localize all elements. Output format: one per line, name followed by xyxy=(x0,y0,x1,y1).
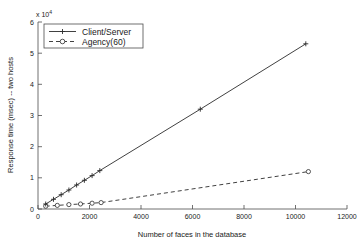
legend-label-client-server: Client/Server xyxy=(82,27,131,37)
x-tick-label: 6000 xyxy=(185,213,201,220)
x-tick-label: 8000 xyxy=(236,213,252,220)
data-point xyxy=(90,201,94,205)
legend-marker-circle-icon xyxy=(60,39,65,44)
y-tick-label: 6 xyxy=(30,19,34,26)
legend-label-agency60: Agency(60) xyxy=(82,37,126,47)
x-tick-label: 12000 xyxy=(337,213,357,220)
data-point xyxy=(306,170,310,174)
y-tick-label: 2 xyxy=(30,143,34,150)
y-tick-label: 3 xyxy=(30,112,34,119)
x-axis-ticks xyxy=(38,205,347,209)
data-point xyxy=(78,202,82,206)
y-axis-tick-labels: 0 1 2 3 4 5 6 xyxy=(30,19,34,213)
x-axis-title: Number of faces in the database xyxy=(138,230,246,239)
y-tick-label: 5 xyxy=(30,50,34,57)
series-client-server xyxy=(43,41,308,206)
data-point xyxy=(55,203,59,207)
y-axis-title: Response time (msec) -- two hosts xyxy=(6,57,15,173)
y-tick-label: 4 xyxy=(30,81,34,88)
y-axis-exponent: x 104 xyxy=(36,9,52,18)
x-tick-label: 4000 xyxy=(133,213,149,220)
y-tick-label: 1 xyxy=(30,174,34,181)
x-axis-tick-labels: 0 2000 4000 6000 8000 10000 12000 xyxy=(36,213,357,220)
chart-figure: 0 2000 4000 6000 8000 10000 12000 0 1 2 … xyxy=(0,0,362,250)
series-agency60 xyxy=(44,170,311,209)
data-point xyxy=(99,201,103,205)
x-tick-label: 2000 xyxy=(82,213,98,220)
y-tick-label: 0 xyxy=(30,206,34,213)
chart-legend: Client/Server Agency(60) xyxy=(44,24,143,48)
series-line-agency60 xyxy=(46,172,309,207)
data-point xyxy=(67,203,71,207)
line-chart: 0 2000 4000 6000 8000 10000 12000 0 1 2 … xyxy=(0,0,362,250)
x-tick-label: 10000 xyxy=(286,213,306,220)
x-tick-label: 0 xyxy=(36,213,40,220)
y-axis-ticks xyxy=(38,22,42,209)
